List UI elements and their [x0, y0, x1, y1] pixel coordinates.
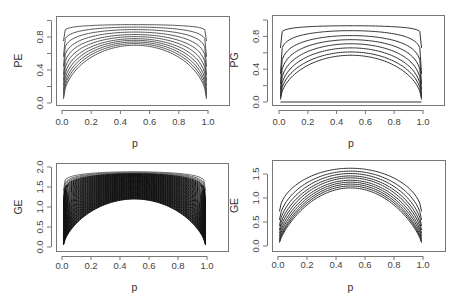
x-tick-label: 0.6	[359, 116, 372, 127]
figure-2x2-panels: 0.00.20.40.60.81.0 0.00.40.8 p PE 0.00.2…	[0, 0, 461, 304]
curve-family	[279, 168, 421, 242]
y-tick-label: 1.0	[34, 200, 45, 213]
series-line	[280, 26, 421, 48]
x-axis-label: p	[348, 281, 354, 293]
y-tick-label: 0.0	[250, 239, 261, 252]
y-tick-label: 0.8	[250, 30, 261, 43]
x-tick-label: 1.0	[416, 116, 429, 127]
x-axis: 0.00.20.40.60.81.0	[55, 256, 213, 271]
curve-family	[63, 172, 205, 245]
x-tick-label: 1.0	[200, 260, 213, 271]
y-tick-label: 0.4	[250, 63, 261, 76]
x-tick-label: 0.2	[85, 116, 98, 127]
x-tick-label: 0.2	[300, 259, 313, 270]
x-tick-label: 0.2	[301, 116, 314, 127]
x-axis: 0.00.20.40.60.81.0	[271, 256, 429, 270]
panel-ge-dense: 0.00.20.40.60.81.0 0.00.51.01.52.0 p GE	[12, 160, 229, 293]
panel-ge: 0.00.20.40.60.81.0 0.00.51.01.5 p GE	[228, 161, 446, 294]
y-tick-label: 0.5	[34, 220, 45, 233]
series-line	[279, 188, 421, 243]
y-axis: 0.00.51.01.52.0	[34, 160, 52, 253]
panel-pe: 0.00.20.40.60.81.0 0.00.40.8 p PE	[12, 17, 230, 150]
x-axis-label: p	[132, 281, 138, 293]
series-line	[280, 52, 421, 98]
y-axis-label: GE	[12, 199, 24, 214]
y-axis-label: GE	[228, 198, 240, 213]
x-tick-label: 0.8	[172, 116, 185, 127]
x-tick-label: 0.4	[114, 116, 127, 127]
x-axis-label: p	[348, 137, 354, 149]
y-axis-label: PE	[12, 53, 24, 67]
y-tick-label: 0.4	[34, 63, 45, 76]
curve-family	[63, 25, 206, 99]
panel-pg: 0.00.20.40.60.81.0 0.00.40.8 p PG	[228, 16, 445, 150]
y-tick-label: 0.8	[34, 30, 45, 43]
x-tick-label: 0.4	[113, 260, 126, 271]
y-tick-label: 1.5	[34, 180, 45, 193]
x-tick-label: 0.6	[143, 116, 156, 127]
y-tick-label: 0.0	[34, 240, 45, 253]
curve-family	[280, 26, 421, 102]
x-tick-label: 1.0	[201, 116, 214, 127]
x-axis-label: p	[132, 137, 138, 149]
y-tick-label: 2.0	[34, 160, 45, 173]
y-tick-label: 0.0	[34, 96, 45, 109]
y-axis: 0.00.40.8	[250, 20, 268, 109]
x-tick-label: 0.0	[55, 260, 68, 271]
x-tick-label: 1.0	[416, 259, 429, 270]
series-line	[63, 40, 206, 93]
x-tick-label: 0.6	[142, 260, 155, 271]
x-tick-label: 0.8	[387, 259, 400, 270]
x-axis: 0.00.20.40.60.81.0	[272, 110, 429, 127]
y-tick-label: 0.0	[250, 95, 261, 108]
y-tick-label: 0.5	[250, 215, 261, 228]
x-tick-label: 0.0	[55, 116, 68, 127]
x-tick-label: 0.8	[171, 260, 184, 271]
x-tick-label: 0.2	[84, 260, 97, 271]
series-line	[279, 171, 421, 220]
series-line	[280, 55, 421, 99]
y-axis: 0.00.40.8	[34, 21, 52, 110]
x-tick-label: 0.0	[271, 259, 284, 270]
x-tick-label: 0.8	[388, 116, 401, 127]
series-line	[279, 184, 421, 241]
x-axis: 0.00.20.40.60.81.0	[55, 110, 214, 127]
x-tick-label: 0.4	[329, 259, 342, 270]
series-line	[279, 168, 421, 211]
y-axis: 0.00.51.01.5	[250, 167, 268, 252]
x-tick-label: 0.6	[358, 259, 371, 270]
y-axis-label: PG	[228, 52, 240, 67]
y-tick-label: 1.0	[250, 191, 261, 204]
y-tick-label: 1.5	[250, 167, 261, 180]
plot-frame	[273, 16, 445, 106]
x-tick-label: 0.4	[330, 116, 343, 127]
x-tick-label: 0.0	[272, 116, 285, 127]
series-line	[63, 44, 206, 98]
